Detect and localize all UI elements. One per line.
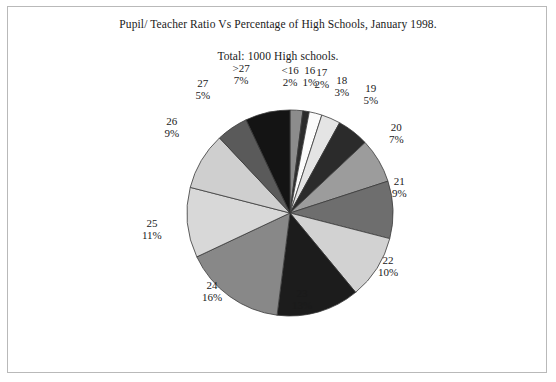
pie-slice-percent: 5% [196,89,211,101]
pie-slice-label: 172% [315,66,330,91]
pie-slice-category: 23 [292,287,312,299]
pie-slice-category: 27 [196,77,211,89]
pie-slice-category: 17 [315,66,330,78]
pie-slice-label: 2511% [142,217,162,242]
pie-slice-category: 22 [378,254,398,266]
pie-slice-percent: 5% [364,94,379,106]
pie-slice-percent: 7% [389,133,404,145]
pie-slice-label: 275% [196,77,211,102]
pie-slice-label: 207% [389,121,404,146]
pie-slice-category: 20 [389,121,404,133]
pie-slice-percent: 10% [378,266,398,278]
pie-slice-percent: 2% [282,76,299,88]
pie-slice-label: 195% [364,82,379,107]
pie-slice-percent: 9% [165,127,180,139]
pie-slice-category: 18 [335,74,350,86]
pie-slice-category: 26 [165,115,180,127]
pie-slice-percent: 2% [315,78,330,90]
pie-slice-label: 2313% [292,287,312,312]
pie-slice-label: 2416% [202,279,222,304]
pie-slice-label: >277% [233,62,250,87]
chart-page: Pupil/ Teacher Ratio Vs Percentage of Hi… [0,0,556,382]
pie-slice-percent: 9% [392,187,407,199]
pie-slice-label: 269% [165,115,180,140]
pie-slice-category: >27 [233,62,250,74]
pie-slice-label: <162% [282,64,299,89]
pie-slice-category: 19 [364,82,379,94]
pie-slice-label: 2210% [378,254,398,279]
pie-chart-area: <162%161%172%183%195%207%219%2210%2313%2… [0,0,556,382]
pie-slice-category: 25 [142,217,162,229]
pie-slice-category: <16 [282,64,299,76]
pie-slice-percent: 13% [292,299,312,311]
pie-slice-category: 24 [202,279,222,291]
pie-slice-label: 183% [335,74,350,99]
pie-slice-percent: 3% [335,86,350,98]
pie-slice-percent: 11% [142,229,162,241]
pie-slice-category: 21 [392,175,407,187]
pie-slice-label: 219% [392,175,407,200]
pie-slice-percent: 7% [233,74,250,86]
pie-slice-percent: 16% [202,291,222,303]
